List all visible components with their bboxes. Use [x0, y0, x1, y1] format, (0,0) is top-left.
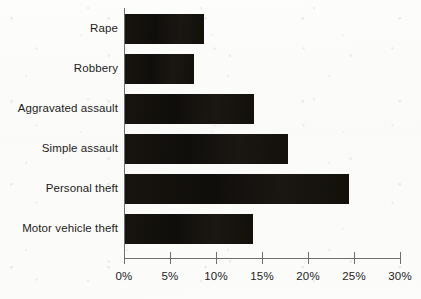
x-axis-tick-label: 30% [380, 271, 420, 283]
x-axis-tick [308, 252, 309, 264]
category-label: Robbery [0, 63, 118, 75]
bar-chart: RapeRobberyAggravated assaultSimple assa… [0, 0, 421, 299]
bar [125, 134, 288, 164]
category-label: Simple assault [0, 143, 118, 155]
category-label: Personal theft [0, 183, 118, 195]
x-axis-tick [262, 252, 263, 264]
x-axis-tick-label: 25% [334, 271, 374, 283]
x-axis-tick-label: 10% [196, 271, 236, 283]
bar [125, 174, 349, 204]
bar [125, 54, 194, 84]
x-axis-tick [400, 252, 401, 264]
x-axis-tick-label: 5% [150, 271, 190, 283]
bar [125, 94, 254, 124]
x-axis-tick [354, 252, 355, 264]
bar [125, 14, 204, 44]
x-axis-tick-label: 0% [104, 271, 144, 283]
x-axis-tick [216, 252, 217, 264]
bar [125, 214, 253, 244]
x-axis-tick [170, 252, 171, 264]
x-axis-tick-label: 15% [242, 271, 282, 283]
x-axis-tick-label: 20% [288, 271, 328, 283]
plot-area: RapeRobberyAggravated assaultSimple assa… [0, 0, 421, 299]
category-label: Rape [0, 23, 118, 35]
category-label: Aggravated assault [0, 103, 118, 115]
x-axis-tick [124, 252, 125, 264]
category-label: Motor vehicle theft [0, 223, 118, 235]
